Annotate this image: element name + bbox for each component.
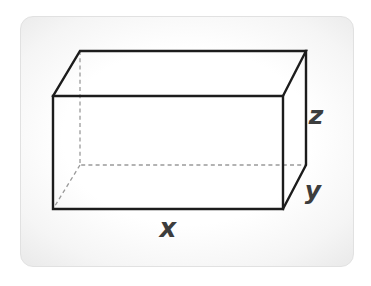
hidden-edges-group	[53, 51, 306, 209]
rectangular-prism-figure: x y z	[0, 0, 371, 286]
hidden-back-edges	[80, 51, 306, 165]
dimension-labels: x y z	[158, 101, 324, 243]
depth-label-y: y	[305, 176, 323, 205]
width-label-x: x	[158, 213, 178, 243]
hidden-depth-edge	[53, 165, 80, 209]
screenshot-root: x y z	[0, 0, 371, 286]
top-face-edges	[53, 51, 306, 96]
height-label-z: z	[308, 101, 324, 130]
visible-edges-group	[53, 51, 306, 209]
front-face	[53, 96, 283, 209]
